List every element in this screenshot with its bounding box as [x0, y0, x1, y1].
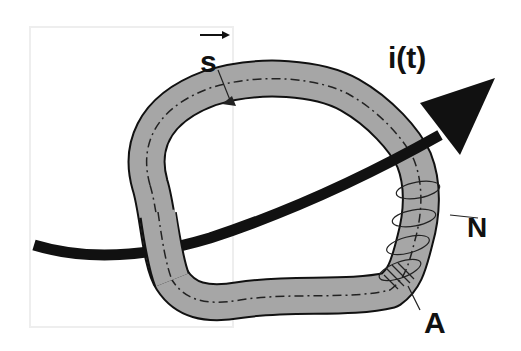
diagram-canvas: s i(t) N A — [0, 0, 521, 351]
label-current: i(t) — [388, 41, 426, 74]
diagram-svg: s i(t) N A — [0, 0, 521, 351]
label-turns: N — [467, 212, 487, 243]
label-area: A — [424, 306, 446, 339]
core-overlap-fill — [158, 212, 172, 280]
label-s: s — [200, 45, 217, 78]
